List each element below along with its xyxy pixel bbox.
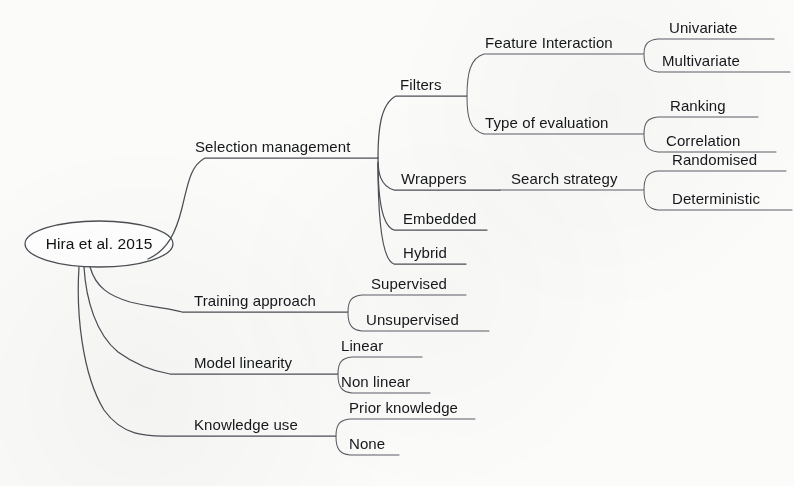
node-correlation[interactable]: Correlation (666, 132, 740, 149)
node-unsupervised[interactable]: Unsupervised (366, 311, 459, 328)
edge-selection-management-to-filters (378, 96, 467, 158)
edge-search-strategy-to-randomised (644, 171, 786, 190)
node-ranking[interactable]: Ranking (670, 97, 726, 114)
node-model-linearity[interactable]: Model linearity (194, 354, 292, 371)
node-knowledge-use[interactable]: Knowledge use (194, 416, 298, 433)
node-deterministic[interactable]: Deterministic (672, 190, 760, 207)
node-none[interactable]: None (349, 435, 385, 452)
node-type-of-evaluation[interactable]: Type of evaluation (485, 114, 609, 131)
node-search-strategy[interactable]: Search strategy (511, 170, 618, 187)
node-univariate[interactable]: Univariate (669, 19, 738, 36)
node-wrappers[interactable]: Wrappers (401, 170, 467, 187)
node-non-linear[interactable]: Non linear (341, 373, 410, 390)
edge-training-approach-to-supervised (348, 295, 466, 312)
node-embedded[interactable]: Embedded (403, 210, 476, 227)
node-filters[interactable]: Filters (400, 76, 442, 93)
node-prior-knowledge[interactable]: Prior knowledge (349, 399, 458, 416)
edge-knowledge-use-to-prior-knowledge (336, 419, 475, 436)
node-multivariate[interactable]: Multivariate (662, 52, 740, 69)
node-feature-interaction[interactable]: Feature Interaction (485, 34, 613, 51)
edge-model-linearity-to-linear (338, 357, 422, 374)
edge-filters-to-feature-interaction (467, 54, 644, 96)
node-selection-management[interactable]: Selection management (195, 138, 350, 155)
root-node-label[interactable]: Hira et al. 2015 (46, 235, 153, 253)
mind-map-canvas: Hira et al. 2015 Selection management Fi… (0, 0, 794, 486)
node-training-approach[interactable]: Training approach (194, 292, 316, 309)
node-supervised[interactable]: Supervised (371, 275, 447, 292)
edge-root-to-selection-management (148, 158, 378, 259)
node-randomised[interactable]: Randomised (672, 151, 757, 168)
node-hybrid[interactable]: Hybrid (403, 244, 447, 261)
node-linear[interactable]: Linear (341, 337, 383, 354)
